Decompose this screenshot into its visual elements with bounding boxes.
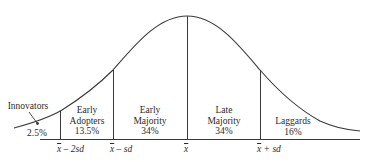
- early-adopters-name-line1: Early: [62, 105, 112, 116]
- tick-suffix: – sd: [114, 144, 132, 154]
- late-majority-name-line2: Majority: [193, 116, 255, 127]
- early-majority-name-line1: Early: [120, 105, 180, 116]
- innovators-label: Innovators: [0, 101, 56, 112]
- early-majority-name-line2: Majority: [120, 116, 180, 127]
- early-majority-percent: 34%: [120, 126, 180, 137]
- tick-mean-minus-2sd: x – 2sd: [57, 144, 84, 154]
- innovators-pointer-line: [29, 112, 37, 123]
- innovators-name: Innovators: [0, 101, 56, 112]
- laggards-label: Laggards 16%: [268, 116, 318, 137]
- early-adopters-name-line2: Adopters: [62, 116, 112, 127]
- late-majority-label: Late Majority 34%: [193, 105, 255, 137]
- early-adopters-label: Early Adopters 13.5%: [62, 105, 112, 137]
- laggards-name: Laggards: [268, 116, 318, 127]
- early-majority-label: Early Majority 34%: [120, 105, 180, 137]
- laggards-percent: 16%: [268, 127, 318, 138]
- tick-mean-plus-sd: x + sd: [257, 144, 281, 154]
- late-majority-percent: 34%: [193, 126, 255, 137]
- early-adopters-percent: 13.5%: [62, 126, 112, 137]
- tick-mean-minus-sd: x – sd: [110, 144, 132, 154]
- innovators-percent: 2.5%: [22, 128, 52, 139]
- tick-mean: x: [184, 144, 188, 154]
- innovators-pointer-dot: [36, 122, 39, 125]
- tick-suffix: + sd: [261, 144, 281, 154]
- late-majority-name-line1: Late: [193, 105, 255, 116]
- bell-curve-diagram: [0, 0, 369, 162]
- tick-suffix: – 2sd: [61, 144, 84, 154]
- mean-symbol: x: [184, 144, 188, 154]
